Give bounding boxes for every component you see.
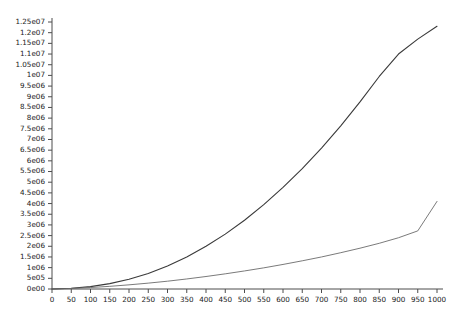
x-tick-label: 250 xyxy=(141,295,155,304)
x-tick-label: 200 xyxy=(122,295,136,304)
x-tick-label: 900 xyxy=(392,295,406,304)
y-tick-label: 1.15e07 xyxy=(15,38,45,47)
y-tick-label: 2e06 xyxy=(27,241,46,250)
y-tick-label: 7e06 xyxy=(27,134,46,143)
x-tick-label: 0 xyxy=(50,295,55,304)
x-tick-label: 350 xyxy=(180,295,194,304)
y-tick-label: 1e06 xyxy=(27,263,46,272)
series-group xyxy=(52,26,437,289)
y-tick-label: 8.5e06 xyxy=(20,102,45,111)
series-line-upper-curve xyxy=(52,26,437,289)
y-tick-label: 6.5e06 xyxy=(20,145,45,154)
y-tick-label: 1.05e07 xyxy=(15,60,45,69)
x-axis-group: 0501001502002503003504004505005506006507… xyxy=(50,289,447,304)
y-tick-label: 0e00 xyxy=(27,284,46,293)
x-tick-label: 500 xyxy=(238,295,252,304)
x-tick-label: 400 xyxy=(199,295,213,304)
x-tick-label: 1000 xyxy=(428,295,447,304)
y-tick-label: 7.5e06 xyxy=(20,124,45,133)
x-tick-label: 700 xyxy=(315,295,329,304)
x-tick-label: 50 xyxy=(67,295,77,304)
x-tick-label: 850 xyxy=(372,295,386,304)
y-tick-label: 1.25e07 xyxy=(15,17,45,26)
y-tick-label: 2.5e06 xyxy=(20,231,45,240)
y-tick-label: 9.5e06 xyxy=(20,81,45,90)
y-tick-label: 3.5e06 xyxy=(20,209,45,218)
x-tick-label: 600 xyxy=(276,295,290,304)
y-tick-label: 9e06 xyxy=(27,92,46,101)
y-tick-label: 4e06 xyxy=(27,199,46,208)
y-tick-label: 8e06 xyxy=(27,113,46,122)
y-axis-group: 0e005e051e061.5e062e062.5e063e063.5e064e… xyxy=(15,17,52,293)
series-line-lower-curve xyxy=(52,201,437,289)
y-tick-label: 4.5e06 xyxy=(20,188,45,197)
y-tick-group: 0e005e051e061.5e062e062.5e063e063.5e064e… xyxy=(15,17,52,293)
x-tick-label: 750 xyxy=(334,295,348,304)
plot-area: 0e005e051e061.5e062e062.5e063e063.5e064e… xyxy=(0,0,452,316)
chart-container: 0e005e051e061.5e062e062.5e063e063.5e064e… xyxy=(0,0,452,316)
y-tick-label: 1.2e07 xyxy=(20,28,45,37)
x-tick-label: 150 xyxy=(103,295,117,304)
x-tick-label: 800 xyxy=(353,295,367,304)
y-tick-label: 5e05 xyxy=(27,273,45,282)
y-tick-label: 1.1e07 xyxy=(20,49,45,58)
y-tick-label: 6e06 xyxy=(27,156,46,165)
x-tick-group: 0501001502002503003504004505005506006507… xyxy=(50,289,447,304)
x-tick-label: 950 xyxy=(411,295,425,304)
y-tick-label: 1.5e06 xyxy=(20,252,45,261)
y-tick-label: 3e06 xyxy=(27,220,46,229)
y-tick-label: 5.5e06 xyxy=(20,166,45,175)
x-tick-label: 550 xyxy=(257,295,271,304)
y-tick-label: 5e06 xyxy=(27,177,46,186)
x-tick-label: 100 xyxy=(84,295,98,304)
y-tick-label: 1e07 xyxy=(27,70,45,79)
x-tick-label: 650 xyxy=(295,295,309,304)
x-tick-label: 300 xyxy=(161,295,175,304)
x-tick-label: 450 xyxy=(218,295,232,304)
